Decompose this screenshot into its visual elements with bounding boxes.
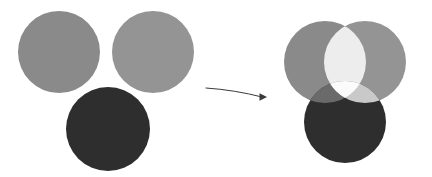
bottom-dark-circle [66, 87, 150, 171]
left-gray-circle [18, 11, 100, 93]
right-gray-circle [112, 11, 194, 93]
figure-root [0, 0, 432, 177]
diagram-canvas [0, 0, 432, 177]
